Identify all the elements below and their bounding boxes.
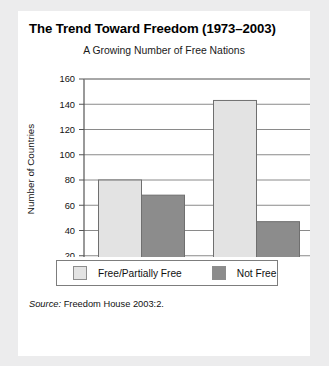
page-title: The Trend Toward Freedom (1973–2003) — [29, 21, 276, 36]
y-axis-tick-labels: 020406080100120140160 — [59, 74, 75, 257]
chart-card: The Trend Toward Freedom (1973–2003) A G… — [18, 11, 310, 356]
y-tick-label-100: 100 — [59, 150, 75, 160]
bar-2003-not-free — [257, 222, 300, 257]
chart-subtitle: A Growing Number of Free Nations — [18, 45, 310, 56]
y-tick-label-160: 160 — [59, 74, 75, 84]
y-axis-title: Number of Countries — [25, 124, 36, 214]
legend-label-not-free: Not Free — [237, 268, 277, 279]
bar-1973-free-partially-free — [99, 180, 142, 257]
y-tick-label-120: 120 — [59, 125, 75, 135]
bar-group — [99, 100, 300, 257]
bar-2003-free-partially-free — [214, 100, 257, 257]
chart-legend: Free/Partially Free Not Free — [56, 260, 278, 286]
chart-page: The Trend Toward Freedom (1973–2003) A G… — [0, 0, 329, 366]
source-note: Source: Freedom House 2003:2. — [29, 299, 164, 309]
y-axis-ticks — [79, 79, 84, 257]
legend-item-not-free: Not Free — [212, 266, 277, 280]
bar-chart: 020406080100120140160 19732003 Number of… — [18, 57, 310, 257]
source-label: Source: — [29, 299, 61, 309]
legend-item-free-partially-free: Free/Partially Free — [73, 266, 182, 280]
y-tick-label-140: 140 — [59, 100, 75, 110]
y-tick-label-60: 60 — [65, 201, 75, 211]
bar-1973-not-free — [142, 195, 185, 257]
legend-label-free-partially-free: Free/Partially Free — [98, 268, 182, 279]
y-tick-label-80: 80 — [65, 175, 75, 185]
y-tick-label-40: 40 — [65, 226, 75, 236]
legend-swatch-free-partially-free — [73, 266, 87, 280]
source-text: Freedom House 2003:2. — [64, 299, 164, 309]
y-tick-label-20: 20 — [65, 251, 75, 257]
legend-swatch-not-free — [212, 266, 226, 280]
